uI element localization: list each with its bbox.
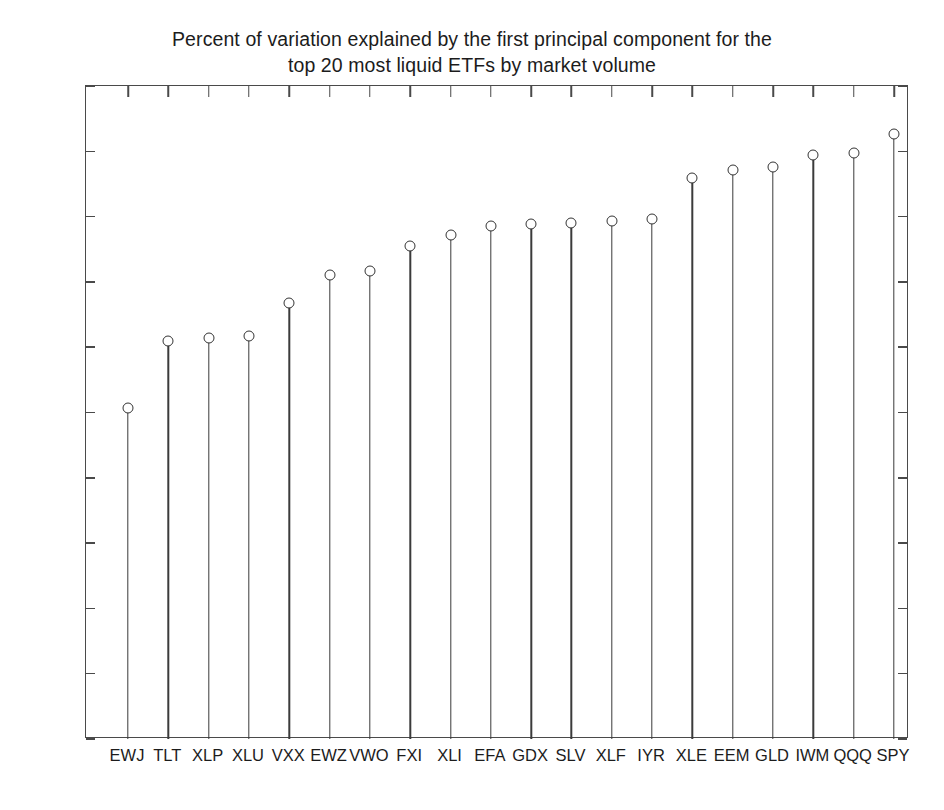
- y-axis-tick-right: [898, 477, 907, 479]
- data-point-marker: [808, 149, 819, 160]
- x-axis-tick-label: GLD: [755, 746, 789, 764]
- x-axis-tick-label: EEM: [714, 746, 750, 764]
- stem-line: [571, 223, 572, 739]
- y-axis-tick-right: [898, 151, 907, 153]
- x-axis-tick-label: EWJ: [110, 746, 145, 764]
- x-axis-tick-top: [611, 86, 613, 97]
- x-axis-tick-top: [409, 86, 411, 97]
- chart-figure: Percent of variation explained by the fi…: [0, 0, 944, 810]
- data-point-marker: [163, 335, 174, 346]
- y-axis-tick-right: [898, 216, 907, 218]
- data-point-marker: [526, 219, 537, 230]
- x-axis-tick-top: [813, 86, 815, 97]
- x-axis-tick-top: [127, 86, 129, 97]
- y-axis-tick: [86, 151, 95, 153]
- y-axis-tick-right: [898, 412, 907, 414]
- data-point-marker: [203, 333, 214, 344]
- x-axis-tick-top: [571, 86, 573, 97]
- y-axis-tick-right: [898, 608, 907, 610]
- x-axis-tick-label: VWO: [349, 746, 388, 764]
- data-point-marker: [243, 331, 254, 342]
- stem-line: [127, 408, 128, 739]
- stem-line: [208, 338, 209, 739]
- y-axis-tick: [86, 738, 95, 740]
- y-axis-tick: [86, 85, 95, 87]
- stem-line: [289, 303, 290, 739]
- data-point-marker: [364, 266, 375, 277]
- data-point-marker: [647, 214, 658, 225]
- x-axis-tick-label: XLF: [596, 746, 626, 764]
- x-axis-tick-top: [732, 86, 734, 97]
- stem-line: [329, 275, 330, 739]
- x-axis-tick-label: XLU: [232, 746, 264, 764]
- stem-line: [611, 221, 612, 739]
- data-point-marker: [445, 229, 456, 240]
- x-axis-tick-top: [853, 86, 855, 97]
- stem-line: [692, 178, 693, 739]
- x-axis-tick-top: [329, 86, 331, 97]
- data-point-marker: [284, 297, 295, 308]
- data-point-marker: [768, 161, 779, 172]
- x-axis-tick-top: [893, 86, 895, 97]
- x-axis-tick-top: [530, 86, 532, 97]
- data-point-marker: [566, 218, 577, 229]
- x-axis-tick-top: [490, 86, 492, 97]
- data-point-marker: [405, 240, 416, 251]
- data-point-marker: [727, 164, 738, 175]
- stem-line: [410, 246, 411, 739]
- plot-area: [85, 85, 908, 738]
- y-axis-tick: [86, 412, 95, 414]
- chart-title: Percent of variation explained by the fi…: [0, 26, 944, 78]
- chart-title-line-1: Percent of variation explained by the fi…: [0, 26, 944, 52]
- x-axis-tick-label: XLI: [437, 746, 462, 764]
- x-axis-tick-label: VXX: [272, 746, 305, 764]
- x-axis-tick-label: XLE: [676, 746, 707, 764]
- stem-line: [369, 271, 370, 739]
- stem-line: [651, 219, 652, 739]
- stem-line: [893, 134, 894, 739]
- stem-line: [853, 153, 854, 739]
- y-axis-tick-right: [898, 281, 907, 283]
- chart-title-line-2: top 20 most liquid ETFs by market volume: [0, 52, 944, 78]
- y-axis-tick-right: [898, 542, 907, 544]
- stem-line: [168, 341, 169, 739]
- y-axis-tick: [86, 673, 95, 675]
- data-point-marker: [606, 216, 617, 227]
- x-axis-tick-top: [208, 86, 210, 97]
- data-point-marker: [848, 148, 859, 159]
- x-axis-tick-label: SPY: [876, 746, 909, 764]
- x-axis-tick-label: XLP: [192, 746, 223, 764]
- x-axis-tick-top: [168, 86, 170, 97]
- x-axis-tick-label: QQQ: [833, 746, 872, 764]
- y-axis-tick-right: [898, 85, 907, 87]
- x-axis-tick-label: TLT: [153, 746, 181, 764]
- data-point-marker: [485, 220, 496, 231]
- y-axis-tick: [86, 281, 95, 283]
- data-point-marker: [324, 270, 335, 281]
- x-axis-tick-label: EWZ: [310, 746, 347, 764]
- x-axis-tick-label: IWM: [795, 746, 829, 764]
- stem-line: [772, 167, 773, 739]
- x-axis-tick-top: [651, 86, 653, 97]
- x-axis-tick-top: [450, 86, 452, 97]
- y-axis-tick: [86, 346, 95, 348]
- x-axis-tick-label: FXI: [396, 746, 422, 764]
- x-axis-tick-top: [248, 86, 250, 97]
- stem-line: [732, 170, 733, 739]
- y-axis-tick-right: [898, 673, 907, 675]
- x-axis-tick-top: [289, 86, 291, 97]
- data-point-marker: [889, 128, 900, 139]
- data-point-marker: [123, 402, 134, 413]
- x-axis-tick-top: [772, 86, 774, 97]
- y-axis-tick-right: [898, 346, 907, 348]
- stem-line: [813, 155, 814, 739]
- data-point-marker: [687, 173, 698, 184]
- x-axis-tick-label: EFA: [474, 746, 505, 764]
- y-axis-tick-right: [898, 738, 907, 740]
- stem-line: [530, 224, 531, 739]
- y-axis-tick: [86, 542, 95, 544]
- x-axis-tick-top: [369, 86, 371, 97]
- x-axis-tick-label: IYR: [637, 746, 665, 764]
- x-axis-tick-label: SLV: [555, 746, 585, 764]
- stem-line: [248, 336, 249, 739]
